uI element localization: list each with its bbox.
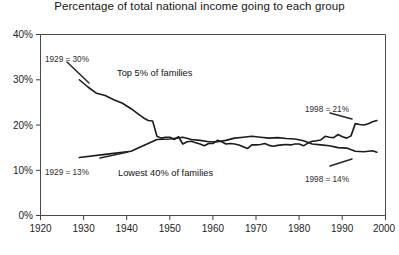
y-axis-label-40: 40% xyxy=(13,29,33,40)
x-axis-label-1950: 1950 xyxy=(159,223,182,234)
series-label-bottom: Lowest 40% of families xyxy=(118,168,213,178)
y-axis-label-0: 0% xyxy=(19,210,34,221)
y-axis-ticks xyxy=(36,35,41,216)
leader-line-bottom-right xyxy=(330,159,352,166)
x-axis-label-1930: 1930 xyxy=(72,223,95,234)
y-axis-label-20: 20% xyxy=(13,120,33,131)
x-axis-label-1920: 1920 xyxy=(29,223,52,234)
x-axis-label-1980: 1980 xyxy=(288,223,311,234)
y-axis-label-30: 30% xyxy=(13,74,33,85)
data-line-lowest-40-percent xyxy=(79,136,377,157)
series-label-top: Top 5% of families xyxy=(117,68,193,78)
annotation-top-right: 1998 = 21% xyxy=(305,105,349,114)
x-axis-labels: 1920 1930 1940 1950 1960 1970 1980 1990 … xyxy=(29,223,395,234)
annotation-top-left: 1929 = 30% xyxy=(45,55,89,64)
leader-line-top-left xyxy=(67,62,89,83)
annotation-bottom-right: 1998 = 14% xyxy=(305,175,349,184)
x-axis-label-1940: 1940 xyxy=(116,223,139,234)
chart-plot-area: 40% 30% 20% 10% 0% 1920 1930 1940 1950 1… xyxy=(0,0,399,255)
x-axis-label-2000: 2000 xyxy=(373,223,396,234)
chart-container: Percentage of total national income goin… xyxy=(0,0,399,255)
x-axis-label-1960: 1960 xyxy=(202,223,225,234)
x-axis-label-1990: 1990 xyxy=(331,223,354,234)
x-axis-ticks xyxy=(41,216,386,221)
plot-frame-rect xyxy=(41,35,386,216)
axis-frame xyxy=(41,35,386,216)
y-axis-labels: 40% 30% 20% 10% 0% xyxy=(13,29,33,221)
annotation-bottom-left: 1929 = 13% xyxy=(45,168,89,177)
x-axis-label-1970: 1970 xyxy=(245,223,268,234)
y-axis-label-10: 10% xyxy=(13,165,33,176)
